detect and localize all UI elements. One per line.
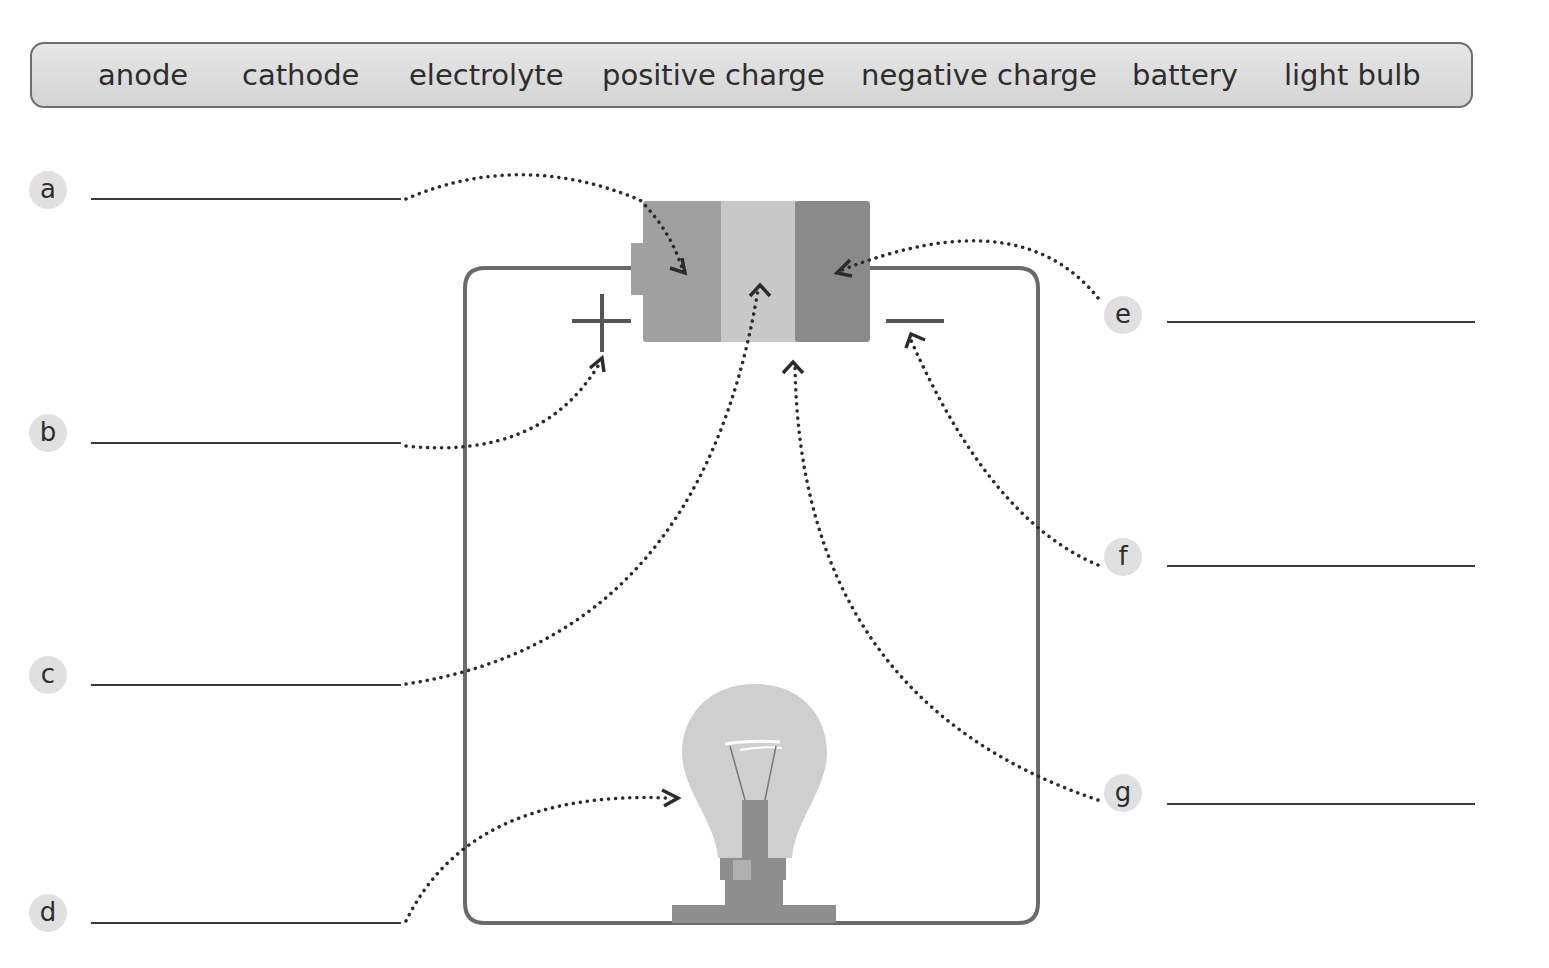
answer-line-e[interactable] xyxy=(1167,321,1475,323)
answer-line-b[interactable] xyxy=(91,442,401,444)
answer-line-g[interactable] xyxy=(1167,803,1475,805)
circuit-diagram xyxy=(0,0,1549,968)
leader-b xyxy=(406,366,598,448)
label-g-badge: g xyxy=(1104,774,1142,812)
leader-c xyxy=(406,290,758,684)
answer-line-c[interactable] xyxy=(91,684,401,686)
label-e-badge: e xyxy=(1104,296,1142,334)
label-d-badge: d xyxy=(29,894,67,932)
battery-icon xyxy=(631,201,870,342)
plus-sign-icon xyxy=(572,294,631,352)
label-b-badge: b xyxy=(29,414,67,452)
leader-d xyxy=(406,798,668,921)
leader-g xyxy=(795,365,1098,800)
answer-line-d[interactable] xyxy=(91,922,401,924)
label-a-badge: a xyxy=(29,171,67,209)
label-c-badge: c xyxy=(29,656,67,694)
light-bulb-icon xyxy=(672,684,836,923)
answer-line-f[interactable] xyxy=(1167,565,1475,567)
leader-f xyxy=(910,338,1098,565)
label-f-badge: f xyxy=(1104,538,1142,576)
answer-line-a[interactable] xyxy=(91,198,401,200)
